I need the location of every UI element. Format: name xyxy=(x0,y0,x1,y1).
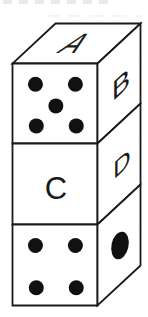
middle-die-front-face-letter: C xyxy=(45,171,67,206)
cropped-text-artifact xyxy=(3,0,111,4)
dice-stack-drawing: A B C D xyxy=(0,0,148,317)
cropped-text-artifact xyxy=(46,15,142,17)
bottom-die-front-face xyxy=(13,225,98,306)
dice-stack-figure: A B C D xyxy=(0,0,148,317)
